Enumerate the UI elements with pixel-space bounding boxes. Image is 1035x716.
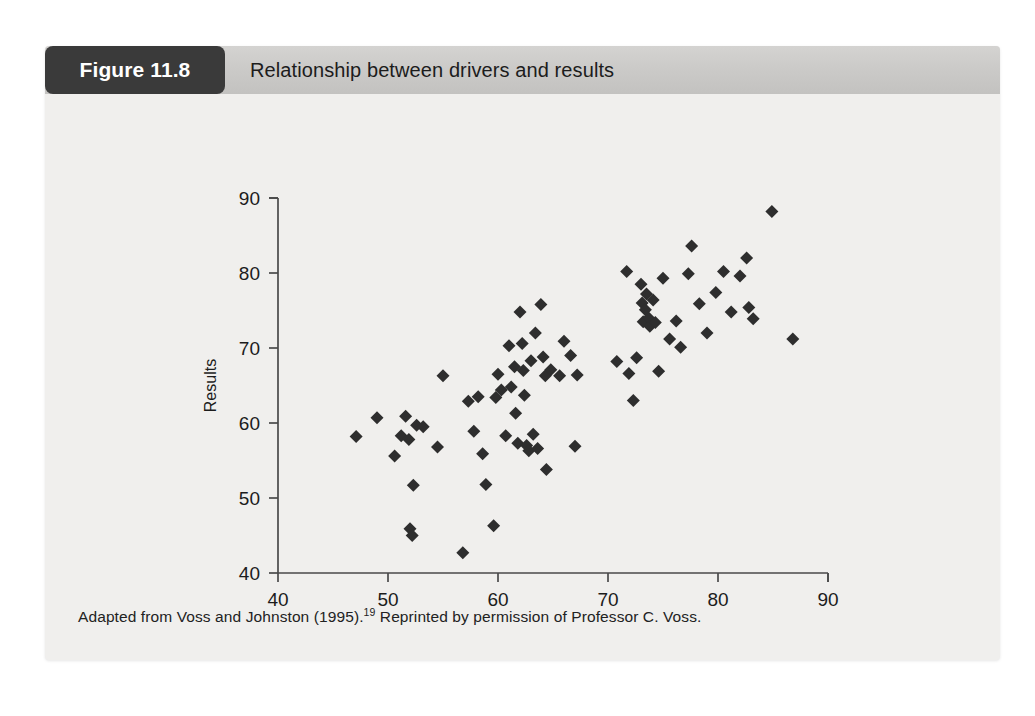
svg-text:80: 80 bbox=[239, 263, 260, 284]
scatter-chart: 405060708090405060708090 DriversResults bbox=[45, 94, 1000, 614]
caption-footnote-marker: 19 bbox=[364, 606, 376, 618]
svg-text:70: 70 bbox=[597, 589, 618, 610]
svg-text:60: 60 bbox=[487, 589, 508, 610]
figure-panel: Figure 11.8 Relationship between drivers… bbox=[45, 46, 1000, 660]
figure-caption: Adapted from Voss and Johnston (1995).19… bbox=[78, 608, 968, 626]
caption-text-before: Adapted from Voss and Johnston (1995). bbox=[78, 608, 364, 625]
svg-text:50: 50 bbox=[377, 589, 398, 610]
figure-number-label: Figure 11.8 bbox=[80, 58, 191, 82]
chart-data-points bbox=[350, 205, 800, 559]
svg-text:70: 70 bbox=[239, 338, 260, 359]
svg-text:80: 80 bbox=[707, 589, 728, 610]
svg-text:40: 40 bbox=[267, 589, 288, 610]
svg-text:Results: Results bbox=[202, 359, 219, 412]
svg-text:60: 60 bbox=[239, 413, 260, 434]
chart-svg: 405060708090405060708090 DriversResults bbox=[45, 94, 1000, 614]
svg-text:90: 90 bbox=[239, 188, 260, 209]
chart-tick-labels: 405060708090405060708090 bbox=[239, 188, 839, 610]
figure-number-badge: Figure 11.8 bbox=[45, 46, 225, 94]
svg-text:90: 90 bbox=[817, 589, 838, 610]
caption-text-after: Reprinted by permission of Professor C. … bbox=[375, 608, 701, 625]
svg-text:50: 50 bbox=[239, 488, 260, 509]
svg-text:40: 40 bbox=[239, 563, 260, 584]
figure-title: Relationship between drivers and results bbox=[250, 46, 614, 94]
figure-header: Figure 11.8 Relationship between drivers… bbox=[45, 46, 1000, 94]
